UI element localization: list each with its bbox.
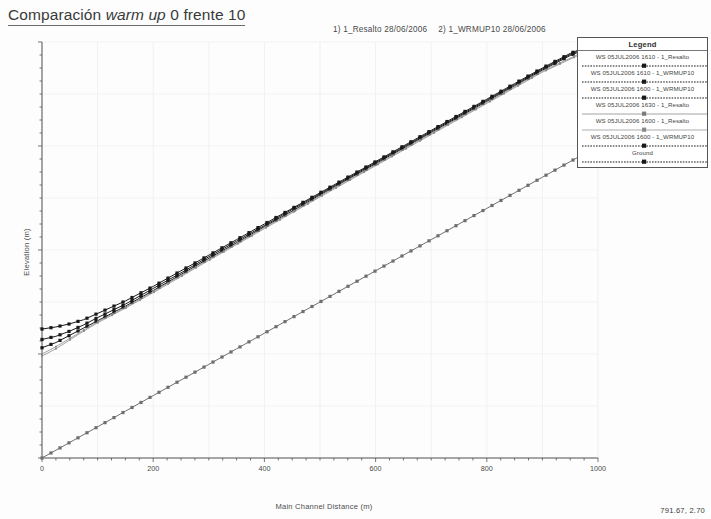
data-marker: [139, 401, 142, 404]
data-marker: [41, 353, 43, 355]
plot-run-1: 1) 1_Resalto 28/06/2006: [333, 25, 427, 34]
data-marker: [531, 77, 533, 79]
data-marker: [391, 156, 393, 158]
data-marker: [503, 93, 505, 95]
data-marker: [373, 270, 376, 273]
data-marker: [58, 333, 61, 336]
legend-item[interactable]: WS 05JUL2006 1610 - 1_Resalto: [580, 53, 705, 69]
legend-item[interactable]: WS 05JUL2006 1600 - 1_WRMUP10: [580, 133, 705, 149]
data-marker: [121, 300, 124, 303]
data-marker: [94, 317, 97, 320]
data-marker: [181, 275, 183, 277]
data-marker: [153, 291, 155, 293]
data-marker: [103, 312, 106, 315]
y-axis-title: Elevation (m): [22, 192, 31, 312]
legend-item-label: Ground: [580, 149, 705, 156]
data-marker: [40, 327, 43, 330]
data-marker: [274, 325, 277, 328]
plot-run-header: 1) 1_Resalto 28/06/20062) 1_WRMUP10 28/0…: [333, 25, 546, 34]
data-marker: [355, 280, 358, 283]
data-marker: [175, 381, 178, 384]
data-marker: [293, 211, 295, 213]
data-marker: [103, 421, 106, 424]
data-marker: [49, 343, 52, 346]
data-marker: [58, 339, 61, 342]
data-marker: [130, 296, 133, 299]
x-tick-label: 200: [147, 464, 159, 473]
data-marker: [319, 300, 322, 303]
data-marker: [85, 322, 88, 325]
data-marker: [562, 57, 565, 60]
page-title: Comparación warm up 0 frente 10: [8, 6, 245, 26]
data-marker: [58, 446, 61, 449]
data-series: [40, 42, 598, 460]
data-marker: [489, 101, 491, 103]
data-marker: [55, 346, 57, 348]
data-marker: [211, 360, 214, 363]
data-marker: [223, 251, 225, 253]
legend-item-label: WS 05JUL2006 1600 - 1_Resalto: [580, 117, 705, 124]
data-marker: [195, 267, 197, 269]
data-marker: [40, 338, 43, 341]
data-marker: [111, 314, 113, 316]
data-marker: [94, 313, 97, 316]
data-marker: [256, 335, 259, 338]
data-marker: [67, 334, 70, 337]
title-prefix: Comparación: [8, 6, 106, 23]
data-marker: [220, 355, 223, 358]
legend-item[interactable]: WS 05JUL2006 1610 - 1_WRMUP10: [580, 69, 705, 85]
data-marker: [125, 307, 127, 309]
data-marker: [85, 431, 88, 434]
data-marker: [405, 148, 407, 150]
data-marker: [526, 184, 529, 187]
data-marker: [337, 290, 340, 293]
data-marker: [193, 371, 196, 374]
data-marker: [349, 179, 351, 181]
data-marker: [69, 339, 71, 341]
legend-item[interactable]: WS 05JUL2006 1600 - 1_WRMUP10: [580, 85, 705, 101]
data-marker: [283, 320, 286, 323]
data-marker: [184, 376, 187, 379]
data-marker: [307, 203, 309, 205]
data-marker: [251, 235, 253, 237]
data-marker: [157, 391, 160, 394]
data-marker: [363, 171, 365, 173]
data-marker: [301, 310, 304, 313]
data-marker: [279, 219, 281, 221]
plot-area: 0200400600800100002468: [38, 40, 610, 482]
data-marker: [209, 259, 211, 261]
data-marker: [436, 234, 439, 237]
data-marker: [535, 179, 538, 182]
data-marker: [508, 194, 511, 197]
data-marker: [571, 158, 574, 161]
data-marker: [391, 259, 394, 262]
data-marker: [419, 140, 421, 142]
data-marker: [148, 396, 151, 399]
x-tick-label: 400: [258, 464, 270, 473]
data-marker: [265, 227, 267, 229]
data-marker: [517, 189, 520, 192]
plot-run-2: 2) 1_WRMUP10 28/06/2006: [438, 25, 545, 34]
data-marker: [461, 116, 463, 118]
data-marker: [559, 63, 561, 65]
grid-lines: [42, 42, 598, 458]
data-marker: [447, 124, 449, 126]
legend-item[interactable]: WS 05JUL2006 1630 - 1_Resalto: [580, 101, 705, 117]
data-marker: [382, 264, 385, 267]
data-marker: [490, 204, 493, 207]
data-marker: [76, 436, 79, 439]
legend-items: WS 05JUL2006 1610 - 1_ResaltoWS 05JUL200…: [578, 51, 707, 167]
legend-item[interactable]: WS 05JUL2006 1600 - 1_Resalto: [580, 117, 705, 133]
data-marker: [58, 324, 61, 327]
legend-title: Legend: [578, 38, 707, 51]
data-marker: [76, 329, 79, 332]
legend-item[interactable]: Ground: [580, 149, 705, 165]
data-marker: [475, 109, 477, 111]
data-marker: [433, 132, 435, 134]
data-marker: [328, 295, 331, 298]
data-marker: [83, 330, 85, 332]
data-marker: [94, 426, 97, 429]
data-marker: [55, 348, 57, 350]
data-marker: [40, 456, 43, 459]
data-marker: [67, 322, 70, 325]
